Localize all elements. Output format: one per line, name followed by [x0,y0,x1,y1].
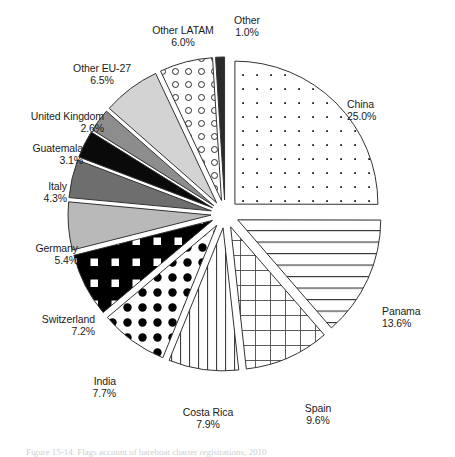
pie-slice-china[interactable]: China 25.0% [235,61,378,204]
slice-label-value: 13.6% [382,317,421,329]
slice-label-value: 7.7% [48,387,116,399]
slice-label-value: 3.1% [14,154,83,166]
slice-label-name: Spain [288,402,348,414]
slice-label-other-latam: Other LATAM 6.0% [137,24,229,49]
slice-label-name: Switzerland [20,313,95,325]
slice-label-value: 6.0% [137,36,229,48]
slice-label-panama: Panama 13.6% [382,305,421,330]
slice-label-value: 1.0% [221,26,273,38]
slice-label-italy: Italy 4.3% [24,180,67,205]
slice-label-name: India [48,375,116,387]
slice-label-costa-rica: Costa Rica 7.9% [163,406,253,431]
slice-label-value: 9.6% [288,414,348,426]
slice-label-name: Italy [24,180,67,192]
slice-label-name: Other [221,14,273,26]
slice-label-germany: Germany 5.4% [16,242,78,267]
slice-label-value: 7.2% [20,325,95,337]
slice-label-united-kingdom: United Kingdom 2.6% [10,110,104,135]
pie-chart-figure: China 25.0%Panama 13.6%Spain 9.6%Costa R… [0,0,455,457]
slice-label-value: 5.4% [16,254,78,266]
pie-slices: China 25.0%Panama 13.6%Spain 9.6%Costa R… [68,57,381,371]
slice-label-name: Germany [16,242,78,254]
slice-label-other-eu-27: Other EU-27 6.5% [59,62,145,87]
slice-label-name: Guatemala [14,142,83,154]
slice-label-name: China [347,98,376,110]
slice-label-switzerland: Switzerland 7.2% [20,313,95,338]
slice-label-spain: Spain 9.6% [288,402,348,427]
slice-label-china: China 25.0% [347,98,376,123]
slice-label-guatemala: Guatemala 3.1% [14,142,83,167]
slice-label-value: 7.9% [163,418,253,430]
slice-label-other: Other 1.0% [221,14,273,39]
slice-label-name: Other EU-27 [59,62,145,74]
slice-label-value: 2.6% [10,122,104,134]
figure-caption: Figure 15-14. Flags account of bareboat … [26,447,446,457]
slice-label-name: Costa Rica [163,406,253,418]
slice-label-value: 6.5% [59,74,145,86]
slice-label-india: India 7.7% [48,375,116,400]
slice-label-value: 4.3% [24,192,67,204]
slice-label-value: 25.0% [347,110,376,122]
slice-label-name: Panama [382,305,421,317]
slice-label-name: United Kingdom [10,110,104,122]
slice-label-name: Other LATAM [137,24,229,36]
